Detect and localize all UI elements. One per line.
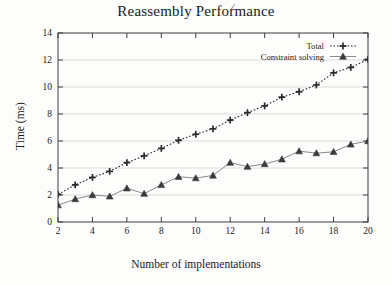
- svg-text:6: 6: [47, 136, 52, 146]
- svg-text:20: 20: [363, 226, 373, 236]
- x-axis-title: Number of implementations: [0, 258, 392, 270]
- data-series-layer: [55, 56, 372, 208]
- plot-area: 02468101214 2468101214161820 TotalConstr…: [0, 0, 392, 285]
- svg-text:10: 10: [43, 82, 53, 92]
- series-constraint-solving: [55, 138, 372, 208]
- chart-figure: Reassembly Performance 02468101214 24681…: [0, 0, 392, 285]
- y-axis-title: Time (ms): [14, 76, 26, 176]
- svg-text:4: 4: [90, 226, 95, 236]
- svg-text:2: 2: [47, 190, 52, 200]
- svg-text:8: 8: [47, 109, 52, 119]
- x-axis-ticks: 2468101214161820: [56, 33, 373, 236]
- svg-text:12: 12: [225, 226, 235, 236]
- svg-text:18: 18: [329, 226, 339, 236]
- chart-legend: TotalConstraint solving: [261, 41, 356, 62]
- svg-text:4: 4: [47, 163, 52, 173]
- legend-label-1: Constraint solving: [261, 52, 325, 62]
- svg-text:8: 8: [159, 226, 164, 236]
- svg-text:12: 12: [43, 55, 53, 65]
- svg-text:6: 6: [125, 226, 130, 236]
- svg-text:14: 14: [260, 226, 270, 236]
- svg-text:10: 10: [191, 226, 201, 236]
- svg-text:16: 16: [294, 226, 304, 236]
- legend-label-0: Total: [306, 41, 324, 51]
- svg-text:2: 2: [56, 226, 61, 236]
- svg-text:0: 0: [47, 217, 52, 227]
- svg-text:14: 14: [43, 28, 53, 38]
